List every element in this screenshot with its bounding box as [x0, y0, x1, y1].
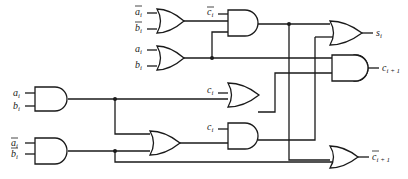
svg-text:ai: ai: [13, 87, 20, 100]
label-c-bar-i-plus-1: ci + 1: [372, 151, 390, 164]
and-gate-carry-body: [332, 55, 368, 81]
label-a-bar-i-top: ai: [135, 6, 142, 19]
label-c-bar-i-top: ci: [207, 6, 214, 19]
svg-text:ci: ci: [207, 121, 213, 134]
or-gate-2: [157, 46, 184, 70]
and-gate-2: [228, 123, 258, 149]
or-gate-3: [228, 83, 259, 107]
svg-text:ai: ai: [135, 43, 142, 56]
label-s-i: si: [376, 27, 382, 40]
label-b-i-top: bi: [135, 59, 142, 72]
svg-text:ci: ci: [207, 84, 213, 97]
label-c-i-mid: ci: [207, 84, 213, 97]
label-c-i-plus-1: ci + 1: [382, 62, 400, 75]
label-c-i-low: ci: [207, 121, 213, 134]
svg-text:bi: bi: [135, 22, 142, 35]
and-gate-ab: [35, 87, 67, 111]
svg-text:ai: ai: [135, 6, 142, 19]
svg-text:si: si: [376, 27, 382, 40]
svg-text:bi: bi: [135, 59, 142, 72]
label-a-i-top: ai: [135, 43, 142, 56]
svg-text:ci: ci: [207, 6, 213, 19]
label-a-i-left: ai: [13, 87, 20, 100]
svg-text:ci + 1: ci + 1: [372, 151, 390, 164]
and-gate-1: [228, 10, 258, 36]
or-gate-4: [150, 131, 180, 155]
wires: [25, 13, 379, 162]
or-gate-1: [157, 9, 184, 33]
svg-text:bi: bi: [13, 100, 20, 113]
full-adder-circuit: ai bi ai bi ci ci ci ai bi ai bi si ci +…: [0, 0, 408, 179]
or-gate-sum: [330, 21, 362, 45]
label-b-i-left: bi: [13, 100, 20, 113]
label-b-bar-i-top: bi: [135, 22, 142, 35]
or-gate-carry-bar: [330, 146, 358, 168]
and-gate-not-ab: [35, 138, 67, 164]
svg-text:ci + 1: ci + 1: [382, 62, 400, 75]
